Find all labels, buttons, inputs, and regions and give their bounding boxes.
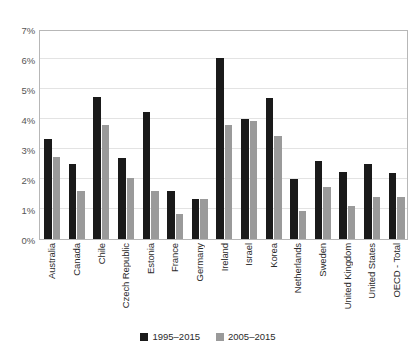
legend-label: 1995–2015 [152,331,200,342]
bar [93,97,101,240]
bar [102,125,110,239]
bar-chart: 0%1%2%3%4%5%6%7% AustraliaCanadaChileCze… [0,0,416,353]
chart-legend: 1995–20152005–2015 [0,331,416,342]
bar-group [335,31,360,239]
legend-swatch-icon [216,333,224,341]
bar-group [212,31,237,239]
bars-layer [40,31,407,239]
bar [118,158,126,239]
bar-group [138,31,163,239]
bar [348,206,356,239]
x-axis-tick-label: United States [366,243,377,299]
bar-group [114,31,139,239]
x-axis-tick-label: Germany [194,243,205,281]
bar [53,157,61,240]
x-axis-tick-label: Canada [71,243,82,276]
y-axis: 0%1%2%3%4%5%6%7% [0,30,35,240]
bar [216,58,224,240]
x-axis-tick-label: Israel [243,243,254,266]
bar [266,98,274,239]
x-axis-tick-label: Chile [96,243,107,264]
y-axis-tick-label: 6% [21,55,35,66]
bar [364,164,372,239]
plot-area [39,30,408,240]
bar [176,214,184,240]
y-axis-tick-label: 1% [21,205,35,216]
bar-group [261,31,286,239]
x-axis-tick-label: Korea [268,243,279,268]
x-axis: AustraliaCanadaChileCzech RepublicEstoni… [0,243,416,328]
bar [315,161,323,239]
bar [373,197,381,239]
bar [143,112,151,240]
y-axis-tick-label: 2% [21,175,35,186]
bar [200,199,208,240]
bar [151,191,159,239]
bar [250,121,258,240]
x-axis-tick-label: France [169,243,180,272]
bar [299,211,307,240]
bar-group [286,31,311,239]
bar-group [360,31,385,239]
bar-group [188,31,213,239]
bar [339,172,347,240]
legend-item: 1995–2015 [140,331,200,342]
bar [44,139,52,240]
x-axis-tick-label: Ireland [219,243,230,271]
x-axis-tick-label: United Kingdom [342,243,353,309]
bar [389,173,397,239]
bar [241,119,249,239]
y-axis-tick-label: 5% [21,85,35,96]
x-axis-tick-label: Estonia [145,243,156,274]
bar [274,136,282,240]
legend-item: 2005–2015 [216,331,276,342]
bar [167,191,175,239]
bar-group [311,31,336,239]
bar-group [65,31,90,239]
bar [397,197,405,239]
bar-group [40,31,65,239]
bar [77,191,85,239]
bar-group [237,31,262,239]
bar [69,164,77,239]
x-axis-tick-label: Netherlands [292,243,303,293]
legend-label: 2005–2015 [228,331,276,342]
x-axis-tick-label: Australia [46,243,57,279]
x-axis-tick-label: Sweden [317,243,328,277]
y-axis-tick-label: 4% [21,115,35,126]
y-axis-tick-label: 7% [21,25,35,36]
y-axis-tick-label: 3% [21,145,35,156]
bar-group [384,31,409,239]
bar-group [89,31,114,239]
bar [323,187,331,240]
x-axis-tick-label: Czech Republic [120,243,131,308]
bar [290,179,298,239]
bar [225,125,233,239]
x-axis-tick-label: OECD - Total [391,243,402,298]
legend-swatch-icon [140,333,148,341]
bar [192,199,200,240]
bar-group [163,31,188,239]
bar [127,178,135,240]
